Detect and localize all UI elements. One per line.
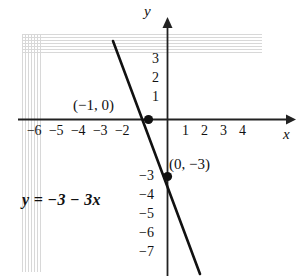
y-tick-label-neg3: −3 — [139, 169, 154, 183]
point-y-intercept — [163, 172, 172, 181]
x-tick-label-neg4: −4 — [71, 124, 85, 138]
y-axis-label: y — [144, 4, 151, 19]
x-tick-label-neg2: −2 — [115, 124, 129, 138]
x-tick-label-3: 3 — [220, 124, 227, 138]
graph-figure: −6 −5 −4 −3 −2 1 2 3 4 3 2 1 −3 −4 −5 −6… — [0, 0, 305, 276]
x-tick-label-4: 4 — [239, 124, 246, 138]
y-tick-label-1: 1 — [152, 90, 159, 104]
y-tick-label-neg4: −4 — [139, 188, 154, 202]
y-tick-label-2: 2 — [152, 71, 159, 85]
equation-label: y = −3 − 3x — [22, 192, 101, 208]
x-tick-label-2: 2 — [201, 124, 208, 138]
point-x-intercept — [144, 115, 153, 124]
x-tick-label-neg3: −3 — [93, 124, 107, 138]
x-intercept-label: (−1, 0) — [73, 98, 114, 113]
x-tick-label-1: 1 — [182, 124, 189, 138]
y-tick-label-neg6: −6 — [139, 226, 154, 240]
y-tick-label-neg5: −5 — [139, 207, 154, 221]
y-tick-label-3: 3 — [152, 52, 159, 66]
y-axis — [163, 17, 173, 276]
y-tick-label-neg7: −7 — [139, 245, 154, 259]
x-axis-label: x — [283, 127, 290, 142]
x-tick-label-neg6: −6 — [27, 124, 41, 138]
x-tick-label-neg5: −5 — [49, 124, 63, 138]
y-intercept-label: (0, −3) — [169, 157, 210, 172]
